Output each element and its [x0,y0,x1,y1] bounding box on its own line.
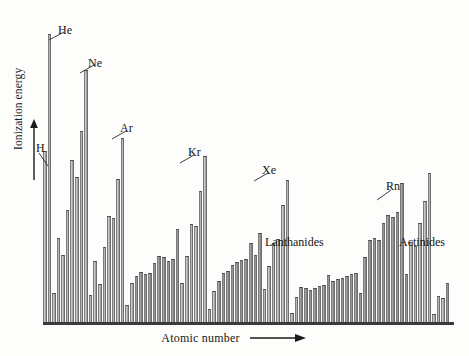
ionization-energy-figure: Ionization energy Atomic number H He Ne … [0,0,469,356]
bar [400,183,404,323]
bar [373,238,377,323]
bar [414,246,418,323]
bar [354,273,358,323]
bar [121,138,125,323]
x-axis-arrow-icon [250,332,308,344]
bar [423,201,427,323]
bar [103,247,107,323]
bar [139,272,143,323]
bar [441,298,445,323]
x-axis-line [43,322,454,325]
bar [52,293,56,323]
bar [254,255,258,323]
bar [313,288,317,323]
bar [162,257,166,323]
bar [80,131,84,323]
bar [304,288,308,323]
bar [368,240,372,323]
bar [194,226,198,323]
bar [336,279,340,323]
bar [263,289,267,323]
bar [135,276,139,323]
bar [61,255,65,323]
annotation-ar: Ar [120,122,133,134]
bar [180,283,184,323]
bar [43,151,47,323]
annotation-rn: Rn [386,180,400,192]
bar [93,261,97,323]
bar [130,283,134,323]
bar [217,281,221,323]
bar [382,223,386,323]
annotation-actinides: Actinides [399,236,445,248]
bar [171,259,175,323]
bar [208,309,212,323]
bar [222,273,226,323]
bar [185,256,189,323]
bar [153,263,157,323]
annotation-he: He [58,24,72,36]
x-axis-label: Atomic number [161,331,239,345]
bar [157,256,161,323]
bar [70,160,74,323]
bar [258,233,262,323]
bar [148,273,152,323]
bar [286,180,290,323]
bar [345,276,349,323]
bar [386,215,390,323]
bar [112,218,116,323]
bar [359,293,363,323]
bar [363,257,367,323]
bar [331,281,335,323]
bar [190,224,194,323]
bar [267,266,271,323]
bar [272,243,276,323]
bar [226,271,230,323]
annotation-lanthanides: Lanthanides [265,236,324,248]
bar [309,290,313,323]
bar [350,274,354,323]
bar [84,70,88,323]
bar [66,210,70,323]
bar [176,229,180,323]
bar [405,274,409,323]
bar [107,216,111,323]
bar [48,34,52,323]
bar [299,287,303,323]
bar [240,260,244,323]
bar [203,156,207,323]
bar [396,212,400,323]
bar [281,205,285,323]
bar [116,179,120,323]
bar [295,297,299,323]
x-axis-label-wrap: Atomic number [0,330,469,346]
bar [235,262,239,323]
plot-area [43,28,452,323]
bar [437,296,441,323]
bar [391,217,395,323]
bar [57,238,61,323]
bar [409,242,413,323]
bar [327,275,331,323]
bar [377,240,381,323]
bar [125,305,129,323]
bar [98,284,102,323]
bar [322,285,326,323]
bar [446,283,450,323]
bar [75,177,79,323]
bar-series [43,28,452,323]
bar [212,291,216,323]
annotation-xe: Xe [262,164,276,176]
bar [318,286,322,323]
bar [89,295,93,323]
annotation-kr: Kr [188,146,201,158]
bar [199,191,203,323]
annotation-h: H [36,142,45,154]
bar [244,259,248,323]
bar [167,261,171,323]
bar [341,278,345,323]
y-axis-label: Ionization energy [12,68,24,150]
bar [144,274,148,323]
annotation-ne: Ne [88,57,102,69]
bar [276,239,280,323]
